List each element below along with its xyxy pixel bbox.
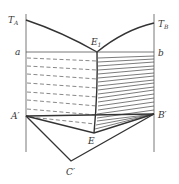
label-b: b bbox=[158, 48, 164, 58]
label-e: E bbox=[87, 136, 95, 146]
solubility-curve-e1-e bbox=[94, 52, 97, 133]
dashed-tie-lines bbox=[27, 58, 97, 124]
solid-tie-lines bbox=[95, 56, 154, 129]
label-b-prime: B′ bbox=[157, 110, 167, 120]
label-a: a bbox=[15, 47, 20, 57]
label-ta: TA bbox=[8, 15, 19, 26]
liquidus-curve-left bbox=[26, 20, 97, 52]
label-e1: E1 bbox=[90, 37, 101, 48]
label-a-prime: A′ bbox=[10, 111, 20, 121]
phase-diagram: TA TB E1 a b A′ B′ E C′ bbox=[0, 0, 179, 184]
liquidus-curve-right bbox=[97, 23, 154, 52]
line-a-prime-b-prime bbox=[26, 114, 154, 116]
label-c-prime: C′ bbox=[66, 167, 75, 177]
label-tb: TB bbox=[158, 19, 169, 30]
